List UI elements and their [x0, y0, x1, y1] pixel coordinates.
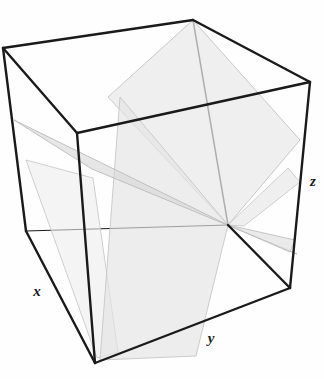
cube-edge-vertical-left [3, 48, 26, 231]
plane-right-spike [228, 225, 295, 252]
figure-container: x y z [0, 0, 324, 379]
axis-label-y: y [206, 330, 215, 346]
intersecting-planes [14, 20, 300, 360]
cube-planes-diagram: x y z [0, 0, 324, 379]
cube-edge-top-back-left [3, 20, 193, 48]
axis-label-x: x [32, 283, 41, 299]
axis-label-z: z [309, 173, 316, 189]
